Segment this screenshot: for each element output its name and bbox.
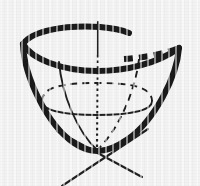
paraboloid-figure [0, 0, 200, 186]
mid-ellipse-back-arc [42, 83, 152, 101]
rim-back-arc [23, 27, 129, 44]
paraboloid-drawing [0, 0, 200, 186]
rim-back-hidden-dashed [124, 48, 179, 59]
mid-cross-section-ellipse [42, 83, 152, 115]
